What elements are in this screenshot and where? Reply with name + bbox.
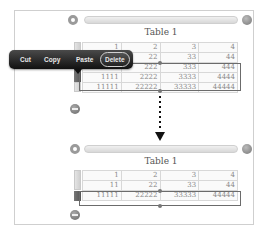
table-row[interactable]: 1234 <box>83 171 238 181</box>
selection-handle-top[interactable] <box>158 189 162 193</box>
table-title-after: Table 1 <box>84 156 238 166</box>
column-header-bar[interactable] <box>84 16 238 24</box>
context-menu-pointer <box>74 69 82 74</box>
selection-handle-top[interactable] <box>158 61 162 65</box>
menu-item-copy[interactable]: Copy <box>44 50 60 69</box>
table-cell[interactable]: 4 <box>199 43 238 53</box>
table-cell[interactable]: 44 <box>199 53 238 63</box>
table-resize-handle-icon[interactable] <box>70 144 80 154</box>
table-cell[interactable]: 2 <box>121 171 160 181</box>
table-cell[interactable]: 33 <box>160 53 199 63</box>
table-cell[interactable]: 1 <box>83 171 122 181</box>
table-title-before: Table 1 <box>84 27 238 37</box>
menu-item-delete[interactable]: Delete <box>100 52 130 67</box>
selection-handle-bottom[interactable] <box>158 89 162 93</box>
table-cell[interactable]: 44 <box>199 181 238 191</box>
context-menu: Cut Copy Paste Delete <box>9 50 133 69</box>
table-resize-handle-icon[interactable] <box>68 15 78 25</box>
menu-item-cut[interactable]: Cut <box>20 50 31 69</box>
table-cell[interactable]: 4 <box>199 171 238 181</box>
remove-row-handle-icon[interactable] <box>70 104 80 114</box>
remove-row-handle-icon[interactable] <box>70 210 80 220</box>
table-cell[interactable]: 33 <box>160 181 199 191</box>
row-header-bar[interactable] <box>74 170 81 190</box>
table-cell[interactable]: 3 <box>160 43 199 53</box>
table-cell[interactable]: 11 <box>83 181 122 191</box>
selection-handle-bottom[interactable] <box>158 204 162 208</box>
table-cell[interactable]: 22 <box>121 181 160 191</box>
menu-item-paste[interactable]: Paste <box>76 50 93 69</box>
table-cell[interactable]: 3 <box>160 171 199 181</box>
add-column-handle-icon[interactable] <box>242 144 252 154</box>
column-header-bar[interactable] <box>84 145 238 153</box>
add-column-handle-icon[interactable] <box>242 15 252 25</box>
